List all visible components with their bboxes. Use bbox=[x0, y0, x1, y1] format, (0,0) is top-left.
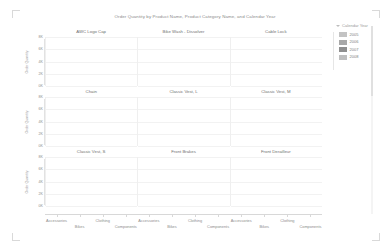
x-axis-tick bbox=[195, 215, 196, 217]
category-slot bbox=[253, 37, 276, 86]
x-axis-tick bbox=[264, 215, 265, 217]
x-axis-tick-label: Clothing bbox=[280, 218, 294, 223]
x-axis-tick-label: Components bbox=[207, 224, 229, 229]
category-slot bbox=[207, 97, 230, 146]
category-slot bbox=[299, 37, 322, 86]
chart-panel[interactable] bbox=[45, 97, 137, 146]
y-axis-tick-label: 6K bbox=[39, 167, 43, 171]
legend-item-label: 2007 bbox=[350, 48, 359, 52]
chart-panel[interactable] bbox=[230, 157, 322, 206]
legend-item-label: 2008 bbox=[350, 55, 359, 59]
x-axis-tick-label: Components bbox=[299, 224, 321, 229]
category-slot bbox=[161, 97, 184, 146]
chevron-down-icon[interactable] bbox=[336, 25, 340, 27]
category-slot bbox=[114, 157, 137, 206]
category-slot bbox=[161, 37, 184, 86]
y-axis-tick-label: 6K bbox=[39, 107, 43, 111]
panel-plot bbox=[46, 157, 137, 206]
panel-plot bbox=[46, 97, 137, 146]
panel-title: Chain bbox=[45, 86, 137, 97]
category-slot bbox=[46, 37, 69, 86]
chart-panel[interactable] bbox=[230, 37, 322, 86]
trellis-row-body: Order Quantity0K2K4K6K8K bbox=[17, 97, 322, 146]
panel-plot bbox=[231, 97, 322, 146]
chart-title: Order Quantity by Product Name, Product … bbox=[0, 14, 390, 19]
legend-title[interactable]: Calendar Year bbox=[331, 23, 383, 28]
panel-title: Classic Vest, M bbox=[230, 86, 322, 97]
legend-swatch bbox=[339, 32, 347, 37]
y-axis-tick-label: 8K bbox=[39, 155, 43, 159]
panel-title-strip: AWC Logo CapBike Wash - DissolverCable L… bbox=[17, 26, 322, 37]
x-axis-tick bbox=[126, 215, 127, 217]
panel-title: AWC Logo Cap bbox=[45, 26, 137, 37]
y-axis-tick-label: 4K bbox=[39, 60, 43, 64]
category-slot bbox=[299, 157, 322, 206]
y-axis-title: Order Quantity bbox=[25, 110, 29, 133]
category-slot bbox=[69, 157, 92, 206]
x-axis-tick bbox=[172, 215, 173, 217]
chart-panel[interactable] bbox=[137, 97, 229, 146]
panel-plot bbox=[231, 157, 322, 206]
chart-panel[interactable] bbox=[137, 37, 229, 86]
x-axis-tick-label: Bikes bbox=[167, 224, 177, 229]
x-axis-tick bbox=[103, 215, 104, 217]
panel-plot bbox=[138, 97, 229, 146]
panel-title: Front Derailleur bbox=[230, 146, 322, 157]
category-slot bbox=[276, 157, 299, 206]
panel-plot bbox=[138, 37, 229, 86]
y-axis-title: Order Quantity bbox=[25, 50, 29, 73]
panel-title-strip: ChainClassic Vest, LClassic Vest, M bbox=[17, 86, 322, 97]
category-slot bbox=[231, 37, 254, 86]
legend-items: 2005200620072008 bbox=[331, 31, 383, 61]
category-slot bbox=[92, 97, 115, 146]
x-axis-tick bbox=[57, 215, 58, 217]
trellis-row-body: Order Quantity0K2K4K6K8K bbox=[17, 37, 322, 86]
panel-group bbox=[45, 97, 322, 146]
gridline bbox=[138, 206, 229, 207]
legend-swatch bbox=[339, 55, 347, 60]
x-axis-tick-label: Accessories bbox=[138, 218, 159, 223]
y-axis-tick-label: 6K bbox=[39, 47, 43, 51]
x-axis-tick-labels: AccessoriesBikesClothingComponentsAccess… bbox=[45, 215, 322, 236]
category-slot bbox=[46, 157, 69, 206]
legend-item[interactable]: 2008 bbox=[331, 54, 383, 62]
category-slot bbox=[253, 157, 276, 206]
category-slot bbox=[69, 37, 92, 86]
trellis-row: ChainClassic Vest, LClassic Vest, MOrder… bbox=[17, 86, 322, 146]
legend-item-label: 2006 bbox=[350, 40, 359, 44]
panel-title: Classic Vest, L bbox=[137, 86, 229, 97]
category-slot bbox=[276, 37, 299, 86]
trellis-row: Classic Vest, SFront BrakesFront Deraill… bbox=[17, 146, 322, 206]
x-axis-group: AccessoriesBikesClothingComponents bbox=[137, 215, 229, 236]
y-axis-tick-label: 4K bbox=[39, 120, 43, 124]
x-axis-tick-label: Accessories bbox=[231, 218, 252, 223]
x-axis-tick-label: Bikes bbox=[75, 224, 85, 229]
x-axis-tick-label: Clothing bbox=[96, 218, 110, 223]
legend-item[interactable]: 2006 bbox=[331, 39, 383, 47]
chart-panel[interactable] bbox=[230, 97, 322, 146]
y-axis-tick-label: 2K bbox=[39, 192, 43, 196]
chart-viewport: Order Quantity by Product Name, Product … bbox=[0, 0, 390, 247]
chart-panel[interactable] bbox=[137, 157, 229, 206]
x-axis-tick bbox=[218, 215, 219, 217]
y-axis-tick-label: 0K bbox=[39, 204, 43, 208]
y-axis-tick-label: 2K bbox=[39, 132, 43, 136]
frame-corner-bottom-right bbox=[372, 233, 380, 241]
x-axis-tick bbox=[80, 215, 81, 217]
chart-panel[interactable] bbox=[45, 157, 137, 206]
category-slot bbox=[138, 37, 161, 86]
category-slot bbox=[138, 157, 161, 206]
x-axis-group: AccessoriesBikesClothingComponents bbox=[45, 215, 137, 236]
category-slot bbox=[161, 157, 184, 206]
panel-plot bbox=[46, 37, 137, 86]
legend-item[interactable]: 2005 bbox=[331, 31, 383, 39]
x-axis: AccessoriesBikesClothingComponentsAccess… bbox=[17, 214, 322, 236]
x-axis-tick-label: Components bbox=[115, 224, 137, 229]
x-axis-tick bbox=[149, 215, 150, 217]
legend-item[interactable]: 2007 bbox=[331, 46, 383, 54]
chart-panel[interactable] bbox=[45, 37, 137, 86]
category-slot bbox=[299, 97, 322, 146]
x-axis-tick bbox=[287, 215, 288, 217]
x-axis-group: AccessoriesBikesClothingComponents bbox=[230, 215, 322, 236]
x-axis-tick bbox=[310, 215, 311, 217]
